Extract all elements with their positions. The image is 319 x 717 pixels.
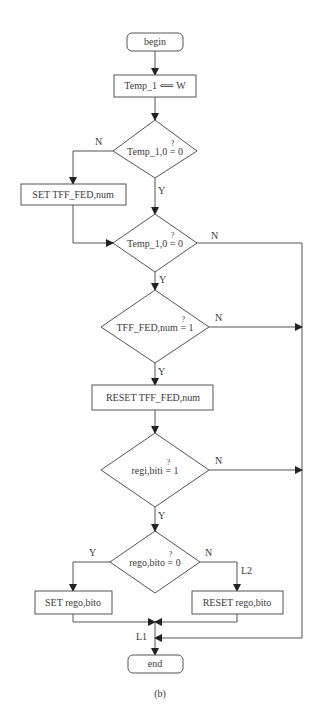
decision-1-lhs: Temp_1,0 [127, 146, 167, 157]
decision-4-op: ?= [165, 466, 171, 476]
begin-label: begin [144, 37, 166, 47]
figure-caption: (b) [154, 688, 166, 699]
decision-5-rhs: 0 [176, 557, 181, 568]
l2-label: L2 [241, 566, 252, 576]
decision-4-label: regi,biti ?= 1 [131, 466, 178, 476]
decision-5-op: ?= [168, 558, 174, 568]
decision-5-lhs: rego,bito [129, 557, 165, 568]
end-label: end [148, 659, 162, 669]
decision-1-yes-label: Y [158, 186, 165, 196]
decision-3-no-label: N [215, 313, 222, 323]
reset-tff-label: RESET TFF_FED,num [106, 393, 200, 403]
decision-2-no-label: N [211, 231, 218, 241]
decision-4-rhs: 1 [174, 465, 179, 476]
decision-4-no-label: N [215, 456, 222, 466]
decision-5-label: rego,bito ?= 0 [129, 558, 180, 568]
decision-2-op: ?= [170, 239, 176, 249]
decision-3-label: TFF_FED,num ?= 1 [116, 323, 193, 333]
decision-4-yes-label: Y [158, 511, 165, 521]
decision-3-op: ?= [180, 323, 186, 333]
decision-5-no-label: N [205, 548, 212, 558]
decision-5-yes-label: Y [89, 548, 96, 558]
decision-1-op: ?= [170, 147, 176, 157]
left-double-arrow-icon: ⟸ [160, 80, 174, 91]
reset-rego-label: RESET rego,bito [203, 598, 272, 608]
set-rego-label: SET rego,bito [45, 598, 101, 608]
assign-rhs: W [176, 80, 185, 91]
decision-2-lhs: Temp_1,0 [127, 238, 167, 249]
flowchart-canvas [0, 0, 319, 717]
decision-1-label: Temp_1,0 ?= 0 [127, 147, 183, 157]
assign-label: Temp_1 ⟸ W [124, 81, 185, 91]
decision-2-label: Temp_1,0 ?= 0 [127, 239, 183, 249]
decision-3-yes-label: Y [158, 367, 165, 377]
decision-2-rhs: 0 [178, 238, 183, 249]
decision-3-rhs: 1 [189, 322, 194, 333]
decision-1-no-label: N [95, 137, 102, 147]
decision-1-rhs: 0 [178, 146, 183, 157]
decision-4-lhs: regi,biti [131, 465, 162, 476]
l1-label: L1 [136, 632, 147, 642]
assign-lhs: Temp_1 [124, 80, 157, 91]
decision-2-yes-label: Y [159, 275, 166, 285]
decision-3-lhs: TFF_FED,num [116, 322, 177, 333]
set-tff-label: SET TFF_FED,num [32, 190, 113, 200]
